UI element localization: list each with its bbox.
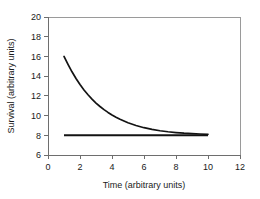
x-tick-label-6: 6 bbox=[141, 162, 146, 172]
y-tick-label-6: 6 bbox=[36, 150, 41, 160]
survival-decay-chart: 6 8 10 12 14 16 18 20 0 2 4 6 8 10 12 Ti… bbox=[0, 0, 260, 199]
y-tick-label-8: 8 bbox=[36, 131, 41, 141]
chart-figure: 6 8 10 12 14 16 18 20 0 2 4 6 8 10 12 Ti… bbox=[0, 0, 260, 199]
x-tick-label-4: 4 bbox=[109, 162, 114, 172]
x-tick-label-0: 0 bbox=[45, 162, 50, 172]
y-tick-label-16: 16 bbox=[31, 52, 41, 62]
exponential-decay-curve bbox=[64, 56, 208, 134]
y-tick-label-18: 18 bbox=[31, 32, 41, 42]
x-tick-label-12: 12 bbox=[235, 162, 245, 172]
y-tick-label-12: 12 bbox=[31, 91, 41, 101]
y-axis-title: Survival (arbitrary units) bbox=[6, 38, 16, 133]
x-tick-label-10: 10 bbox=[203, 162, 213, 172]
y-axis-tick-labels: 6 8 10 12 14 16 18 20 bbox=[31, 12, 41, 160]
data-series-group bbox=[64, 56, 208, 135]
x-axis-ticks bbox=[48, 155, 240, 159]
x-axis-title: Time (arbitrary units) bbox=[103, 180, 186, 190]
x-axis-tick-labels: 0 2 4 6 8 10 12 bbox=[45, 162, 245, 172]
axes bbox=[48, 17, 240, 155]
x-tick-label-2: 2 bbox=[77, 162, 82, 172]
x-tick-label-8: 8 bbox=[173, 162, 178, 172]
y-tick-label-10: 10 bbox=[31, 111, 41, 121]
y-axis-ticks bbox=[44, 17, 48, 155]
y-tick-label-20: 20 bbox=[31, 12, 41, 22]
plot-frame bbox=[48, 17, 240, 155]
y-tick-label-14: 14 bbox=[31, 71, 41, 81]
